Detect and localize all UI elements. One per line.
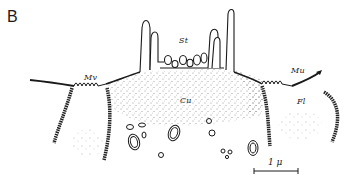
figure-panel: B Mv Mu St Cu Fl 1 μ [0, 0, 360, 182]
microvilli-left [74, 83, 106, 86]
label-st: St [179, 36, 188, 45]
microvilli-right [262, 81, 292, 86]
cell-wall-left-1 [54, 88, 72, 143]
label-fl: Fl [297, 97, 306, 106]
label-cu: Cu [180, 96, 192, 105]
cell-wall-right-2 [324, 92, 338, 142]
surface-line-left [30, 80, 74, 86]
cell-diagram-drawing [0, 0, 360, 182]
scale-bar-label: 1 μ [268, 157, 282, 167]
panel-label: B [7, 8, 18, 26]
label-mv-left: Mv [84, 73, 97, 82]
scale-bar [254, 168, 298, 174]
label-mv-right: Mu [291, 66, 305, 75]
mitochondria [127, 124, 258, 156]
